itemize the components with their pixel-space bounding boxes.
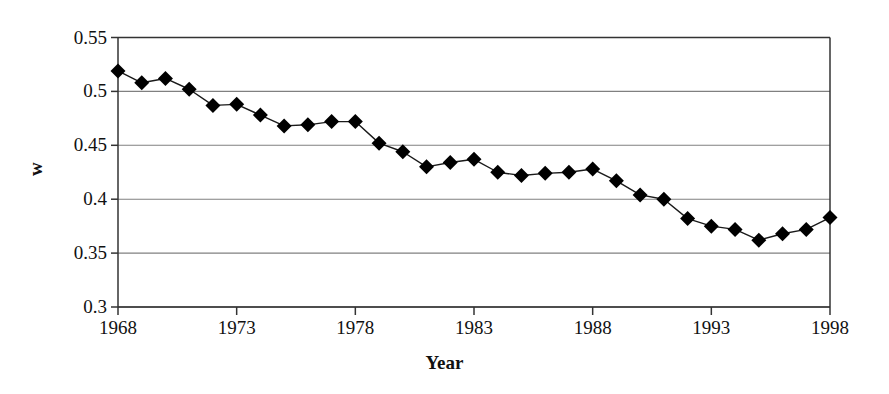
tick-marks — [111, 38, 830, 316]
data-point-marker — [799, 222, 814, 237]
axis-lines — [118, 38, 830, 308]
data-point-marker — [324, 114, 339, 129]
data-point-marker — [443, 155, 458, 170]
data-point-marker — [585, 162, 600, 177]
data-point-marker — [751, 233, 766, 248]
data-point-marker — [538, 166, 553, 181]
y-axis-title: w — [25, 149, 47, 189]
y-tick-label: 0.3 — [83, 297, 107, 316]
y-tick-label: 0.4 — [83, 189, 107, 208]
y-tick-label: 0.35 — [74, 243, 107, 262]
x-tick-label: 1983 — [434, 318, 514, 337]
data-point-marker — [514, 168, 529, 183]
data-point-marker — [300, 117, 315, 132]
grid-lines — [118, 38, 830, 308]
x-axis-title: Year — [0, 352, 889, 374]
data-point-marker — [182, 82, 197, 97]
y-tick-label: 0.45 — [74, 135, 107, 154]
data-point-marker — [253, 108, 268, 123]
data-point-marker — [823, 210, 838, 225]
y-tick-label: 0.55 — [74, 28, 107, 47]
data-point-marker — [775, 226, 790, 241]
data-point-marker — [205, 98, 220, 113]
x-tick-label: 1968 — [78, 318, 158, 337]
x-tick-label: 1973 — [197, 318, 277, 337]
data-point-marker — [609, 173, 624, 188]
data-point-marker — [656, 192, 671, 207]
x-tick-label: 1998 — [790, 318, 870, 337]
data-point-marker — [490, 165, 505, 180]
data-point-marker — [633, 187, 648, 202]
data-point-marker — [419, 159, 434, 174]
data-point-marker — [728, 222, 743, 237]
y-tick-label: 0.5 — [83, 81, 107, 100]
data-point-marker — [561, 165, 576, 180]
data-point-marker — [395, 144, 410, 159]
x-tick-label: 1978 — [315, 318, 395, 337]
data-point-marker — [229, 97, 244, 112]
data-point-marker — [111, 63, 126, 78]
data-point-marker — [704, 219, 719, 234]
data-point-marker — [467, 152, 482, 167]
data-point-marker — [680, 211, 695, 226]
data-point-marker — [158, 71, 173, 86]
x-tick-label: 1993 — [671, 318, 751, 337]
data-point-marker — [277, 118, 292, 133]
chart-figure: 0.30.350.40.450.50.55 196819731978198319… — [0, 0, 889, 394]
x-tick-label: 1988 — [553, 318, 633, 337]
data-point-marker — [134, 75, 149, 90]
